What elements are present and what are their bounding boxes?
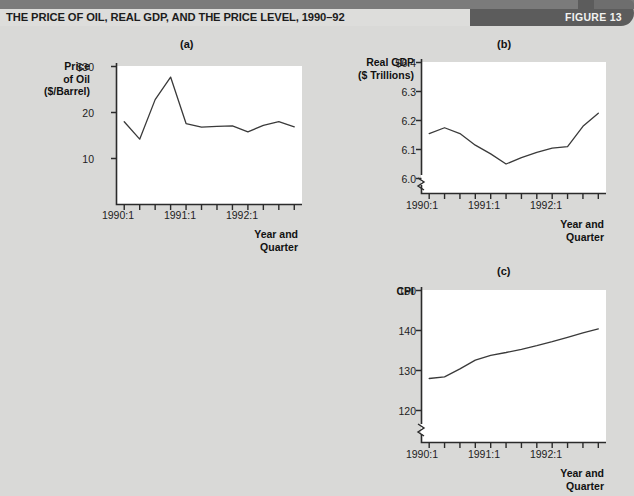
panel-c-plot-background bbox=[421, 290, 606, 442]
panel-c-x-axis-title: Year and Quarter bbox=[492, 467, 604, 492]
panel-a-letter: (a) bbox=[180, 38, 193, 50]
panel-b-y-title-line-2: ($ Trillions) bbox=[358, 69, 414, 81]
panel-c-xtick-1992: 1992:1 bbox=[518, 448, 574, 460]
panel-b-x-axis-title: Year and Quarter bbox=[492, 218, 604, 243]
panel-a-x-title-line-2: Quarter bbox=[260, 241, 298, 253]
panel-a-y-title-line-3: ($/Barrel) bbox=[44, 85, 90, 97]
panel-a-xtick-1992: 1992:1 bbox=[214, 209, 270, 221]
panel-c-xtick-1990: 1990:1 bbox=[394, 448, 450, 460]
panel-b-x-title-line-2: Quarter bbox=[566, 231, 604, 243]
panel-a-ytick-30: $30 bbox=[58, 61, 94, 73]
panel-b-plot-background bbox=[421, 62, 606, 193]
panel-a-y-ticks bbox=[111, 67, 117, 159]
panel-c-xtick-1991: 1991:1 bbox=[456, 448, 512, 460]
panel-a-plot-background bbox=[116, 66, 302, 204]
panel-c-x-title-line-2: Quarter bbox=[566, 480, 604, 492]
panel-c-y-ticks bbox=[416, 291, 422, 411]
panel-b: (b) Real GDP ($ Trillions) $6.4 6.3 6.2 … bbox=[310, 0, 634, 265]
panel-a-x-axis-title: Year and Quarter bbox=[186, 228, 298, 253]
panel-a-ytick-20: 20 bbox=[58, 107, 94, 119]
panel-b-x-title-line-1: Year and bbox=[560, 218, 604, 230]
panel-b-xtick-1992: 1992:1 bbox=[518, 199, 574, 211]
panel-b-letter: (b) bbox=[497, 38, 511, 50]
panel-a-x-title-line-1: Year and bbox=[254, 228, 298, 240]
panel-c-letter: (c) bbox=[497, 265, 510, 277]
panel-b-plot bbox=[410, 54, 630, 214]
panel-b-xtick-1991: 1991:1 bbox=[456, 199, 512, 211]
panel-c-x-title-line-1: Year and bbox=[560, 467, 604, 479]
panel-b-xtick-1990: 1990:1 bbox=[394, 199, 450, 211]
panel-a-plot bbox=[90, 58, 320, 218]
panel-a: (a) Price of Oil ($/Barrel) $30 20 10 19… bbox=[0, 0, 320, 265]
panel-a-xtick-1990: 1990:1 bbox=[90, 209, 146, 221]
panel-a-y-title-line-2: of Oil bbox=[63, 73, 90, 85]
panel-a-ytick-10: 10 bbox=[58, 153, 94, 165]
panel-c-plot bbox=[410, 282, 630, 462]
figure-page: THE PRICE OF OIL, REAL GDP, AND THE PRIC… bbox=[0, 0, 634, 496]
panel-a-xtick-1991: 1991:1 bbox=[152, 209, 208, 221]
panel-c: (c) CPI 150 140 130 120 1990:1 1991:1 19… bbox=[310, 258, 634, 496]
panel-b-y-ticks bbox=[416, 63, 422, 179]
